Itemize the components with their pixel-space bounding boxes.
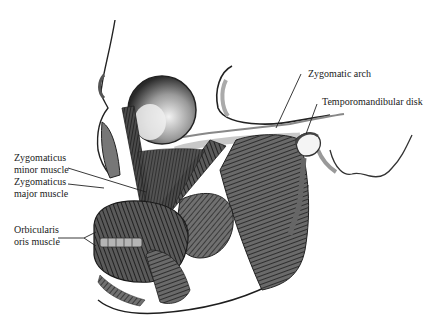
- label-zygomaticus-minor: Zygomaticus minor muscle: [14, 152, 69, 176]
- label-zygomatic-arch: Zygomatic arch: [308, 68, 371, 80]
- label-temporomandibular-disk: Temporomandibular disk: [322, 96, 423, 108]
- label-zygomaticus-major: Zygomaticus major muscle: [14, 176, 68, 200]
- label-orbicularis-oris: Orbicularis oris muscle: [14, 224, 60, 248]
